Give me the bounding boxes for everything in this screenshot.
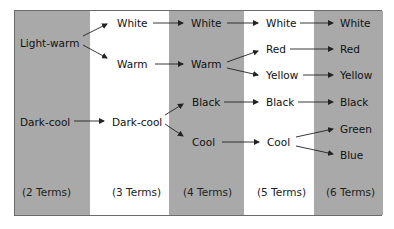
term-label-4: (4 Terms) — [183, 186, 232, 198]
node-yellow: Yellow — [266, 69, 298, 81]
node-white: White — [340, 17, 371, 29]
node-yellow: Yellow — [340, 69, 372, 81]
node-white: White — [266, 17, 297, 29]
node-dark-cool: Dark-cool — [112, 116, 162, 128]
node-white: White — [191, 17, 222, 29]
column-3-terms — [90, 11, 169, 215]
node-white: White — [117, 17, 148, 29]
node-cool: Cool — [192, 136, 215, 148]
node-red: Red — [340, 43, 360, 55]
term-label-2: (2 Terms) — [22, 186, 71, 198]
node-light-warm: Light-warm — [20, 37, 79, 49]
node-cool: Cool — [267, 136, 290, 148]
node-black: Black — [266, 96, 294, 108]
term-label-6: (6 Terms) — [326, 186, 375, 198]
column-5-terms — [244, 11, 314, 215]
node-dark-cool: Dark-cool — [20, 116, 70, 128]
node-green: Green — [340, 123, 372, 135]
node-warm: Warm — [117, 58, 148, 70]
column-4-terms — [169, 11, 244, 215]
term-label-5: (5 Terms) — [257, 186, 306, 198]
term-label-3: (3 Terms) — [112, 186, 161, 198]
node-black: Black — [192, 96, 220, 108]
node-warm: Warm — [191, 58, 222, 70]
node-red: Red — [266, 43, 286, 55]
node-black: Black — [340, 96, 368, 108]
node-blue: Blue — [340, 149, 363, 161]
column-6-terms — [314, 11, 383, 215]
